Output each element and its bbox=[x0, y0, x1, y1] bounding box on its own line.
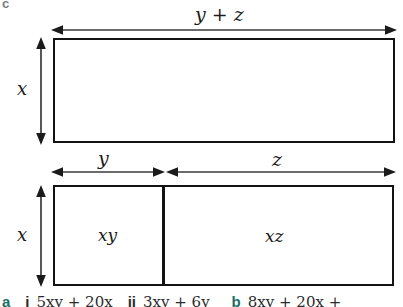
answer-item-i-expression: 5xy + 20x bbox=[37, 293, 113, 307]
answers-strip: ai5xy + 20xii3xy + 6yb8xy + 20x + bbox=[0, 293, 403, 307]
answer-item-ii-numeral: ii bbox=[128, 293, 136, 307]
bottom-right-area-label: xz bbox=[265, 228, 284, 245]
top-height-arrow bbox=[34, 36, 48, 146]
figure-canvas: c y + z x y z x bbox=[0, 0, 403, 307]
top-width-label: y + z bbox=[195, 5, 244, 24]
bottom-left-area-label: xy bbox=[98, 227, 117, 244]
bottom-right-width-arrow bbox=[165, 165, 397, 179]
top-width-arrow bbox=[50, 23, 398, 37]
answer-item-ii-expression: 3xy + 6y bbox=[143, 293, 210, 307]
top-height-label: x bbox=[17, 80, 27, 98]
answer-part-b-label: b bbox=[232, 293, 241, 307]
bottom-left-width-arrow bbox=[50, 165, 166, 179]
answer-item-i-numeral: i bbox=[25, 293, 29, 307]
bottom-height-arrow bbox=[34, 184, 48, 288]
top-rectangle bbox=[53, 38, 395, 143]
answer-part-b-expression: 8xy + 20x + bbox=[248, 293, 341, 307]
part-letter-c: c bbox=[2, 0, 9, 11]
answer-part-a-label: a bbox=[2, 293, 10, 307]
bottom-rectangle-divider bbox=[162, 185, 165, 286]
bottom-height-label: x bbox=[17, 226, 27, 244]
